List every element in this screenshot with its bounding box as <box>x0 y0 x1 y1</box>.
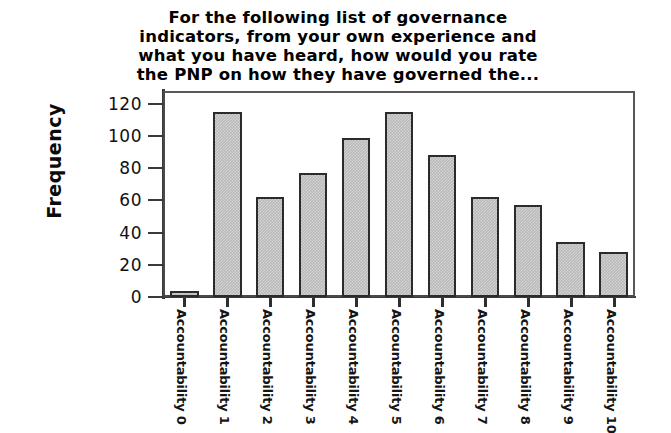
y-axis-tick-100 <box>148 135 164 137</box>
y-axis-tick-80 <box>148 167 164 169</box>
x-axis-category-label: Accountability 1 <box>217 309 232 429</box>
bar <box>471 197 499 297</box>
y-axis-tick-60 <box>148 199 164 201</box>
y-axis-tick-40 <box>148 232 164 234</box>
x-axis-tick <box>527 298 530 307</box>
x-axis-tick <box>269 298 272 307</box>
x-axis-category-label: Accountability 9 <box>561 309 576 429</box>
x-axis-category-label: Accountability 4 <box>346 309 361 429</box>
x-axis-tick <box>398 298 401 307</box>
x-axis-tick <box>570 298 573 307</box>
bar <box>428 155 456 297</box>
x-axis-category-label: Accountability 8 <box>518 309 533 429</box>
x-axis-tick <box>355 298 358 307</box>
bar <box>342 138 370 297</box>
x-axis-tick <box>226 298 229 307</box>
bar <box>170 291 198 297</box>
y-axis-tick-0 <box>148 296 164 298</box>
y-axis-tick-label: 0 <box>82 287 142 307</box>
x-axis-category-label: Accountability 5 <box>389 309 404 429</box>
y-axis-tick-label: 80 <box>82 158 142 178</box>
x-axis-category-label: Accountability 6 <box>432 309 447 429</box>
bar <box>385 112 413 297</box>
y-axis-tick-label: 100 <box>82 126 142 146</box>
y-axis-tick-label: 120 <box>82 94 142 114</box>
x-axis-category-label: Accountability 7 <box>475 309 490 429</box>
x-axis-tick <box>312 298 315 307</box>
x-axis-tick <box>613 298 616 307</box>
x-axis-tick <box>441 298 444 307</box>
x-axis-category-label: Accountability 10 <box>604 309 619 429</box>
bar <box>256 197 284 297</box>
x-axis-category-label: Accountability 3 <box>303 309 318 429</box>
bar <box>556 242 584 297</box>
y-axis-tick-labels: 020406080100120 <box>80 0 142 425</box>
bar <box>514 205 542 297</box>
x-axis-tick <box>183 298 186 307</box>
x-axis-tick <box>484 298 487 307</box>
x-axis-category-label: Accountability 0 <box>174 309 189 429</box>
y-axis-title: Frequency <box>43 96 65 226</box>
y-axis-tick-20 <box>148 264 164 266</box>
bar <box>299 173 327 297</box>
bar <box>213 112 241 297</box>
bar-series <box>163 91 635 297</box>
y-axis-tick-label: 40 <box>82 223 142 243</box>
x-axis-category-label: Accountability 2 <box>260 309 275 429</box>
y-axis-tick-label: 60 <box>82 190 142 210</box>
y-axis-tick-label: 20 <box>82 255 142 275</box>
bar <box>599 252 627 297</box>
y-axis-tick-120 <box>148 103 164 105</box>
